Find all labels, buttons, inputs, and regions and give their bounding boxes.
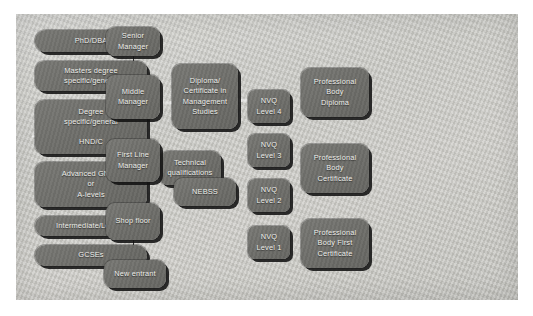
node-label: NEBSS	[177, 187, 233, 197]
node-new-entrant[interactable]: New entrant	[104, 260, 166, 288]
node-shop-floor[interactable]: Shop floor	[106, 203, 160, 240]
node-label: Diploma/ Certificate in Management Studi…	[175, 76, 235, 117]
node-nvq-level-3[interactable]: NVQ Level 3	[248, 134, 290, 167]
node-professional-body-diploma[interactable]: Professional Body Diploma	[301, 68, 369, 117]
node-first-line-manager[interactable]: First Line Manager	[106, 139, 160, 182]
node-nvq-level-4[interactable]: NVQ Level 4	[248, 90, 290, 123]
node-senior-manager[interactable]: Senior Manager	[106, 27, 160, 56]
node-professional-body-certificate[interactable]: Professional Body Certificate	[301, 144, 369, 193]
node-nvq-level-1[interactable]: NVQ Level 1	[248, 226, 290, 259]
node-label: Shop floor	[109, 216, 157, 226]
node-label: Technical qualifications	[162, 158, 218, 178]
node-diploma-certificate-management-studies[interactable]: Diploma/ Certificate in Management Studi…	[172, 64, 238, 129]
node-label: Professional Body Diploma	[304, 77, 366, 108]
node-label: NVQ Level 3	[251, 140, 287, 160]
node-label: Senior Manager	[109, 31, 157, 51]
node-label: NVQ Level 1	[251, 232, 287, 252]
node-label: First Line Manager	[109, 150, 157, 170]
node-middle-manager[interactable]: Middle Manager	[106, 75, 160, 119]
node-professional-body-first-certificate[interactable]: Professional Body First Certificate	[301, 219, 369, 268]
node-label: Professional Body Certificate	[304, 153, 366, 184]
node-label: NVQ Level 4	[251, 96, 287, 116]
node-nebss[interactable]: NEBSS	[174, 178, 236, 206]
node-label: Professional Body First Certificate	[304, 228, 366, 259]
diagram-canvas: PhD/DBA Masters degree specific/general …	[0, 0, 533, 316]
node-label: New entrant	[107, 269, 163, 279]
node-label: Middle Manager	[109, 87, 157, 107]
node-nvq-level-2[interactable]: NVQ Level 2	[248, 179, 290, 212]
node-label: NVQ Level 2	[251, 185, 287, 205]
diagram-panel: PhD/DBA Masters degree specific/general …	[16, 14, 518, 300]
